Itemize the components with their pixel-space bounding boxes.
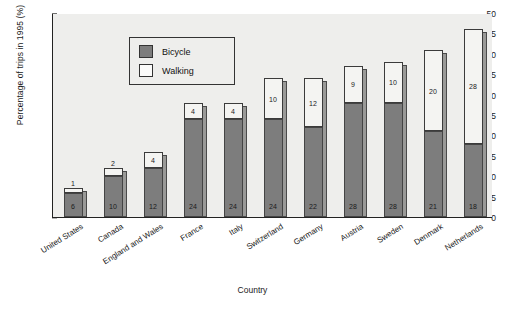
bar-shadow (83, 191, 87, 217)
legend: Bicycle Walking (129, 37, 235, 85)
legend-swatch-bicycle (139, 45, 153, 58)
x-axis-title: Country (0, 285, 505, 295)
bar-shadow (483, 32, 487, 217)
bar-shadow (163, 155, 167, 217)
bar-value-walking: 1 (65, 180, 82, 187)
bar-shadow (123, 171, 127, 217)
bar-value-walking: 2 (105, 160, 122, 167)
bar-denmark: 2120 (424, 50, 443, 217)
bar-segment-walking: 10 (384, 62, 403, 103)
y-axis-title: Percentage of trips in 1995 (%) (15, 0, 25, 165)
x-tick-label: United States (19, 222, 85, 268)
bar-value-walking: 20 (425, 87, 442, 94)
bar-segment-bicycle: 28 (384, 103, 403, 217)
legend-swatch-walking (139, 64, 153, 77)
legend-label-walking: Walking (162, 66, 194, 76)
bar-value-walking: 12 (305, 99, 322, 106)
bar-value-bicycle: 28 (345, 203, 362, 210)
bar-segment-walking: 2 (104, 168, 123, 176)
bar-segment-bicycle: 18 (464, 144, 483, 217)
bar-value-bicycle: 24 (265, 203, 282, 210)
bar-shadow (323, 81, 327, 217)
legend-item-walking: Walking (139, 63, 194, 78)
bar-england-and-wales: 124 (144, 152, 163, 217)
bar-value-bicycle: 24 (185, 203, 202, 210)
bar-value-walking: 9 (345, 81, 362, 88)
bar-value-walking: 10 (385, 79, 402, 86)
bar-value-bicycle: 18 (465, 203, 482, 210)
bar-shadow (403, 65, 407, 217)
bar-segment-walking: 28 (464, 29, 483, 143)
bar-segment-walking: 12 (304, 78, 323, 127)
bar-shadow (363, 69, 367, 217)
bar-segment-walking: 4 (144, 152, 163, 168)
bar-sweden: 2810 (384, 62, 403, 217)
bar-value-walking: 4 (225, 107, 242, 114)
bar-value-bicycle: 21 (425, 203, 442, 210)
bar-austria: 289 (344, 66, 363, 217)
bar-segment-bicycle: 24 (224, 119, 243, 217)
bar-shadow (443, 53, 447, 217)
bar-value-bicycle: 6 (65, 203, 82, 210)
bar-segment-walking: 1 (64, 188, 83, 192)
legend-item-bicycle: Bicycle (139, 44, 191, 59)
bar-segment-bicycle: 22 (304, 127, 323, 217)
bar-shadow (203, 106, 207, 217)
bar-value-bicycle: 24 (225, 203, 242, 210)
bar-value-bicycle: 10 (105, 203, 122, 210)
bar-value-bicycle: 28 (385, 203, 402, 210)
bar-segment-bicycle: 24 (184, 119, 203, 217)
plot-area: 6110212424424424102212289281021201828 Bi… (52, 14, 492, 218)
bar-united-states: 61 (64, 188, 83, 217)
bar-segment-walking: 10 (264, 78, 283, 119)
bar-segment-walking: 4 (184, 103, 203, 119)
figure-bicycle-walking-trips: Percentage of trips in 1995 (%) 05101520… (0, 0, 505, 313)
bar-segment-walking: 20 (424, 50, 443, 132)
bar-germany: 2212 (304, 78, 323, 217)
bar-shadow (243, 106, 247, 217)
bar-canada: 102 (104, 168, 123, 217)
bar-segment-walking: 9 (344, 66, 363, 103)
bar-segment-bicycle: 10 (104, 176, 123, 217)
bar-segment-bicycle: 28 (344, 103, 363, 217)
bar-segment-bicycle: 24 (264, 119, 283, 217)
legend-label-bicycle: Bicycle (162, 47, 191, 57)
bar-value-walking: 4 (185, 107, 202, 114)
bar-value-walking: 4 (145, 156, 162, 163)
bar-shadow (283, 81, 287, 217)
bar-netherlands: 1828 (464, 29, 483, 217)
bar-value-walking: 10 (265, 95, 282, 102)
bar-value-walking: 28 (465, 83, 482, 90)
bar-value-bicycle: 22 (305, 203, 322, 210)
bar-switzerland: 2410 (264, 78, 283, 217)
bar-france: 244 (184, 103, 203, 217)
bar-segment-bicycle: 12 (144, 168, 163, 217)
bar-segment-bicycle: 6 (64, 193, 83, 217)
bar-segment-bicycle: 21 (424, 131, 443, 217)
bar-italy: 244 (224, 103, 243, 217)
bar-segment-walking: 4 (224, 103, 243, 119)
bar-value-bicycle: 12 (145, 203, 162, 210)
